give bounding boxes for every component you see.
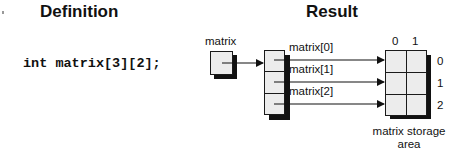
arrows-layer bbox=[0, 0, 469, 156]
row-pointer-arrows bbox=[274, 60, 384, 104]
